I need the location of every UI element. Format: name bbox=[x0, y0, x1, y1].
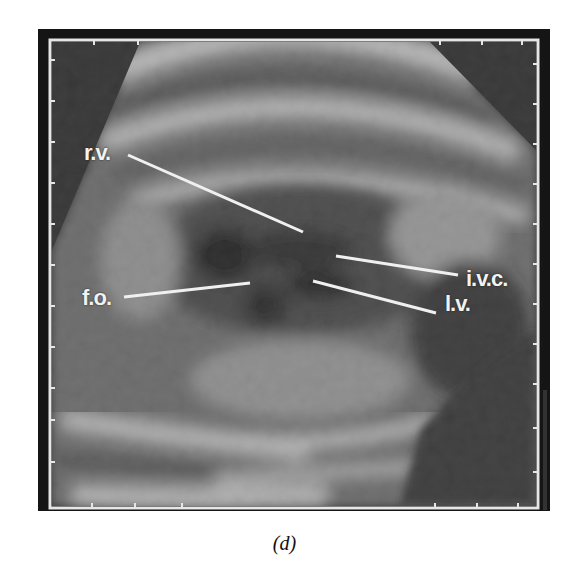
label-right-ventricle: r.v. bbox=[84, 140, 110, 166]
figure-caption: (d) bbox=[0, 532, 569, 555]
ultrasound-figure: r.v. i.v.c. l.v. f.o. (d) bbox=[0, 0, 569, 569]
label-foramen-ovale: f.o. bbox=[82, 285, 111, 311]
scan-content bbox=[52, 35, 536, 506]
label-left-ventricle: l.v. bbox=[445, 291, 470, 317]
label-inferior-vena-cava: i.v.c. bbox=[466, 266, 507, 292]
